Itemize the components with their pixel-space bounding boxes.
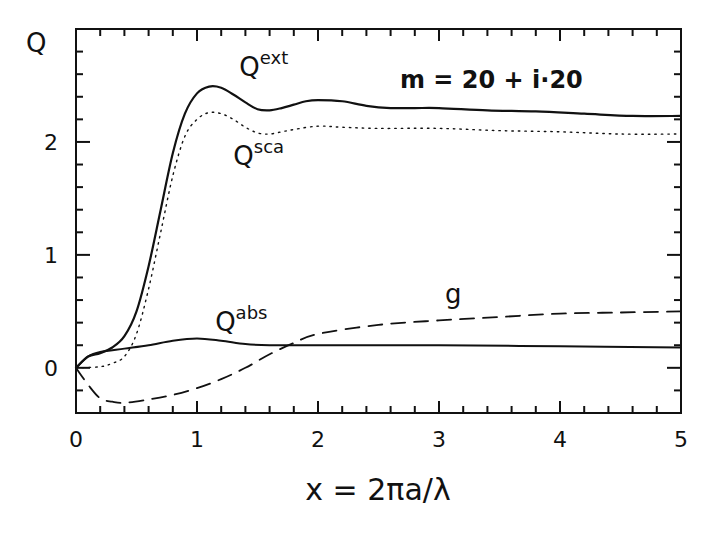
plot-frame <box>76 29 681 413</box>
series-label-q-abs: Qabs <box>215 302 267 337</box>
x-tick-label: 5 <box>674 427 688 452</box>
x-tick-label: 2 <box>311 427 325 452</box>
chart: 012345012 QextQscaQabsg Q x = 2πa/λ m = … <box>0 0 718 534</box>
annotation-refractive-index: m = 20 + i·20 <box>400 66 583 94</box>
x-tick-label: 4 <box>553 427 567 452</box>
series-label-g: g <box>445 279 462 309</box>
tick-labels: 012345012 <box>44 130 688 452</box>
series-lines <box>76 86 681 403</box>
series-g <box>76 311 681 403</box>
x-axis-label: x = 2πa/λ <box>305 472 450 507</box>
x-tick-label: 0 <box>69 427 83 452</box>
series-label-q-sca: Qsca <box>233 136 284 171</box>
series-label-q-ext: Qext <box>239 47 288 82</box>
x-tick-label: 3 <box>432 427 446 452</box>
series-q-sca <box>76 112 681 368</box>
y-tick-label: 0 <box>44 356 58 381</box>
y-axis-label: Q <box>26 28 46 58</box>
series-q-abs <box>76 338 681 367</box>
x-tick-label: 1 <box>190 427 204 452</box>
axis-ticks <box>76 29 681 413</box>
y-tick-label: 2 <box>44 130 58 155</box>
y-tick-label: 1 <box>44 243 58 268</box>
